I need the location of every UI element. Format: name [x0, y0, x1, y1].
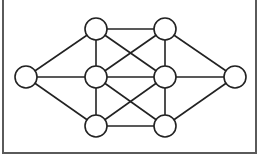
graph-diagram	[0, 0, 262, 159]
node-b2	[154, 115, 176, 137]
edge-l-t1	[26, 29, 96, 77]
node-r	[224, 66, 246, 88]
node-b1	[85, 115, 107, 137]
edge-r-b2	[165, 77, 235, 126]
node-m1	[85, 66, 107, 88]
edges	[26, 29, 235, 126]
edge-r-t2	[165, 29, 235, 77]
node-l	[15, 66, 37, 88]
node-t2	[154, 18, 176, 40]
node-t1	[85, 18, 107, 40]
node-m2	[154, 66, 176, 88]
edge-l-b1	[26, 77, 96, 126]
